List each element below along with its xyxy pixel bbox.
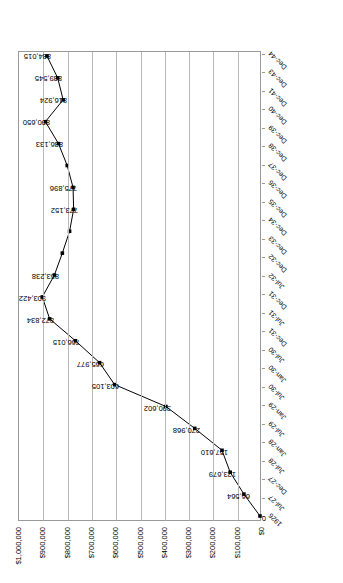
- x-axis-tick-label: Dec-27: [267, 475, 288, 496]
- x-axis-tick: [262, 294, 265, 295]
- y-axis-tick-label: $200,000: [208, 527, 217, 558]
- data-point-label: 890,650: [22, 118, 49, 127]
- data-point-label: 665,977: [77, 360, 104, 369]
- x-axis-tick-label: Jul-27: [267, 494, 285, 512]
- data-point-label: 839,545: [35, 74, 62, 83]
- x-axis-tick: [262, 109, 265, 110]
- data-point-marker[interactable]: [61, 251, 65, 255]
- data-point-label: 766,015: [53, 338, 80, 347]
- x-axis-tick: [262, 331, 265, 332]
- data-point-label: 816,924: [40, 96, 67, 105]
- y-axis-tick-label: $100,000: [232, 527, 241, 558]
- x-axis-tick-label: Jul-28: [267, 457, 285, 475]
- x-axis-tick: [262, 202, 265, 203]
- y-axis-tick-label: $600,000: [111, 527, 120, 558]
- x-axis-tick: [262, 387, 265, 388]
- data-point-label: 270,968: [173, 426, 200, 435]
- x-axis-tick-label: Dec-34: [267, 216, 288, 237]
- x-axis-tick-label: Jul-31: [267, 309, 285, 327]
- x-axis-tick: [262, 146, 265, 147]
- x-axis-tick: [262, 128, 265, 129]
- x-axis-tick: [262, 479, 265, 480]
- gridline: [141, 52, 142, 520]
- y-axis-tick-label: $1,000,000: [14, 527, 23, 565]
- x-axis-tick: [262, 72, 265, 73]
- x-axis-tick: [262, 165, 265, 166]
- x-axis-tick: [262, 183, 265, 184]
- data-point-label: 903,422: [19, 294, 46, 303]
- x-axis-tick-label: Jan-30: [267, 364, 287, 384]
- data-point-label: 775,896: [50, 184, 77, 193]
- chart-figure: $1,000,000$900,000$800,000$700,000$600,0…: [0, 0, 343, 583]
- x-axis-tick: [262, 257, 265, 258]
- x-axis-tick: [262, 461, 265, 462]
- x-axis-tick: [262, 220, 265, 221]
- x-axis-tick: [262, 276, 265, 277]
- x-axis-tick-label: Jul-30: [267, 383, 285, 401]
- x-axis-tick-label: Dec-38: [267, 142, 288, 163]
- y-axis-tick-label: $0: [257, 527, 266, 535]
- y-axis-tick-label: $500,000: [135, 527, 144, 558]
- y-axis-tick-label: $700,000: [86, 527, 95, 558]
- x-axis-tick-label: Jan-29: [267, 401, 287, 421]
- data-point-label: 872,834: [27, 316, 54, 325]
- x-axis-tick: [262, 405, 265, 406]
- x-axis-tick: [262, 91, 265, 92]
- x-axis-tick-label: Dec-31: [267, 327, 288, 348]
- x-axis: 1926Jul-27Dec-27Jul-28Jan-28Jul-29Jan-29…: [262, 51, 342, 521]
- data-point-label: 884,015: [24, 52, 51, 61]
- x-axis-tick: [262, 498, 265, 499]
- gridline: [68, 52, 69, 520]
- data-point-label: 853,238: [32, 272, 59, 281]
- x-axis-tick: [262, 368, 265, 369]
- x-axis-tick-label: Jul-32: [267, 272, 285, 290]
- data-point-label: 123,679: [209, 470, 236, 479]
- x-axis-tick: [262, 54, 265, 55]
- y-axis-tick-label: $800,000: [62, 527, 71, 558]
- gridline: [189, 52, 190, 520]
- y-axis-tick-label: $400,000: [159, 527, 168, 558]
- gridline: [116, 52, 117, 520]
- x-axis-tick: [262, 239, 265, 240]
- x-axis-tick: [262, 424, 265, 425]
- x-axis-tick-label: Jan-28: [267, 438, 287, 458]
- y-axis: $1,000,000$900,000$800,000$700,000$600,0…: [18, 523, 261, 583]
- gridline: [238, 52, 239, 520]
- x-axis-tick: [262, 313, 265, 314]
- gridline: [165, 52, 166, 520]
- data-point-label: 773,152: [51, 206, 78, 215]
- gridline: [92, 52, 93, 520]
- x-axis-tick-label: Jul-29: [267, 420, 285, 438]
- x-axis-tick: [262, 442, 265, 443]
- series-polyline: [42, 56, 260, 516]
- data-point-label: 836,133: [36, 140, 63, 149]
- x-axis-tick: [262, 350, 265, 351]
- x-axis-tick-label: Dec-36: [267, 179, 288, 200]
- data-point-label: 0: [262, 514, 266, 523]
- rotated-chart-wrapper: $1,000,000$900,000$800,000$700,000$600,0…: [0, 0, 343, 583]
- x-axis-tick-label: Dec-40: [267, 106, 288, 127]
- data-point-label: 66,564: [227, 492, 250, 501]
- x-axis-tick-label: Dec-31: [267, 290, 288, 311]
- y-axis-tick-label: $300,000: [184, 527, 193, 558]
- y-axis-tick-label: $900,000: [38, 527, 47, 558]
- data-point-label: 603,105: [92, 382, 119, 391]
- data-point-label: 157,610: [201, 448, 228, 457]
- x-axis-tick-label: 1926: [267, 512, 283, 528]
- x-axis-tick-label: Jul-30: [267, 346, 285, 364]
- x-axis-tick-label: Dec-32: [267, 253, 288, 274]
- data-point-label: 390,602: [144, 404, 171, 413]
